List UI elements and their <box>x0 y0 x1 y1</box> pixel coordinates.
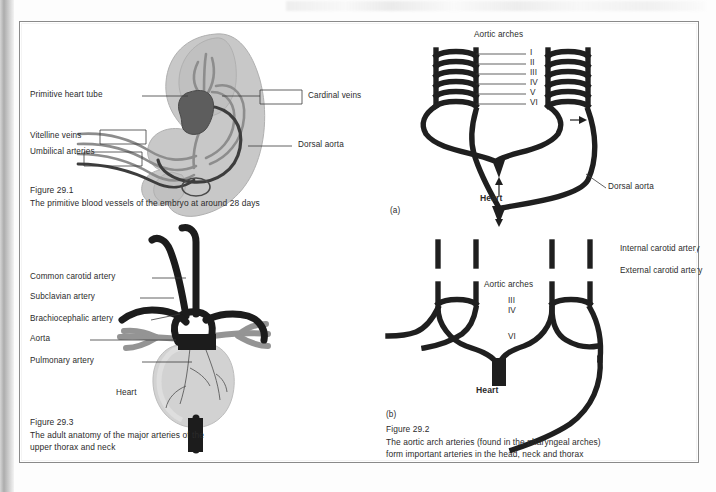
aortic-arches-diagram-a <box>380 28 690 228</box>
left-arch-IV-b <box>388 308 438 336</box>
figure-29-2-panel-a: Aortic arches <box>380 28 690 228</box>
right-dorsal-aorta <box>502 110 595 208</box>
label-heart-panel-a: Heart <box>480 194 502 204</box>
right-arch-II <box>548 62 588 67</box>
bleed-through-text <box>286 1 706 11</box>
leader-vitelline-veins <box>100 130 146 144</box>
right-ventral-aorta <box>498 106 561 160</box>
figure-29-2-number: Figure 29.2 <box>386 423 429 435</box>
arch-numeral-III-b: III <box>508 296 515 305</box>
figure-29-1: Primitive heart tube Cardinal veins Vite… <box>20 22 350 222</box>
arch-numeral-II: II <box>530 58 535 67</box>
panel-b-key: (b) <box>386 410 396 419</box>
label-primitive-heart-tube: Primitive heart tube <box>30 90 103 99</box>
label-aorta: Aorta <box>30 334 50 343</box>
arch-numeral-IV-b: IV <box>508 306 516 315</box>
label-umbilical-arteries: Umbilical arteries <box>30 147 95 157</box>
label-internal-carotid-artery: Internal carotid artery <box>620 244 700 253</box>
label-vitelline-veins: Vitelline veins <box>30 131 81 140</box>
right-arch-V <box>548 92 588 97</box>
left-arch-III-b <box>438 300 476 305</box>
arch-numeral-V: V <box>530 88 536 97</box>
right-arch-IV <box>548 82 588 87</box>
aorta-root <box>178 334 216 350</box>
label-dorsal-aorta-panel-a: Dorsal aorta <box>608 182 654 193</box>
panel-a-title: Aortic arches <box>474 30 523 39</box>
arch-numeral-VI: VI <box>530 98 538 107</box>
numeral-leaders-a <box>476 54 526 104</box>
label-cardinal-veins: Cardinal veins <box>308 91 361 100</box>
right-arch-I <box>548 52 588 57</box>
label-pulmonary-artery: Pulmonary artery <box>30 356 94 365</box>
figure-29-2-panel-b: Aortic arches III IV VI Internal carotid… <box>380 228 696 460</box>
book-binding-shadow <box>0 0 14 492</box>
left-arch-III <box>436 72 476 77</box>
figure-29-3-caption: The adult anatomy of the major arteries … <box>30 429 204 453</box>
label-external-carotid-artery: External carotid artery <box>620 266 702 275</box>
label-dorsal-aorta-embryo: Dorsal aorta <box>298 140 344 149</box>
label-brachiocephalic-artery: Brachiocephalic artery <box>30 314 113 323</box>
label-common-carotid-artery: Common carotid artery <box>30 272 115 281</box>
label-heart-panel-b: Heart <box>476 386 498 396</box>
arch-numeral-III: III <box>530 68 537 77</box>
left-arch-V <box>436 92 476 97</box>
panel-a-key: (a) <box>390 206 400 215</box>
arch-numeral-IV: IV <box>530 78 538 87</box>
figure-29-3-number: Figure 29.3 <box>30 416 73 428</box>
right-arch-III <box>548 72 588 77</box>
figure-29-1-number: Figure 29.1 <box>30 184 73 196</box>
left-arch-I <box>436 52 476 57</box>
right-common-carotid <box>152 238 186 316</box>
figure-29-3: Common carotid artery Subclavian artery … <box>20 222 360 460</box>
textbook-page: Primitive heart tube Cardinal veins Vite… <box>19 21 699 463</box>
flow-arrows-a <box>495 116 587 227</box>
arch-numeral-VI-b: VI <box>508 332 516 341</box>
figure-29-2-caption: The aortic arch arteries (found in the p… <box>386 436 601 460</box>
left-ventral-aorta <box>423 106 492 160</box>
right-arch-III-b <box>552 300 590 305</box>
label-subclavian-artery: Subclavian artery <box>30 292 95 301</box>
right-arch-VI <box>548 102 588 107</box>
panel-b-title: Aortic arches <box>484 280 533 289</box>
left-arch-IV <box>436 82 476 87</box>
figure-29-1-caption: The primitive blood vessels of the embry… <box>30 197 260 209</box>
left-arch-VI <box>436 102 476 107</box>
arch-numeral-I: I <box>530 48 532 57</box>
right-arch-IV-b <box>590 308 601 360</box>
left-arch-II <box>436 62 476 67</box>
left-ventral-sac-b <box>438 308 496 362</box>
label-heart-adult: Heart <box>116 388 137 397</box>
heart-apex <box>492 160 505 178</box>
